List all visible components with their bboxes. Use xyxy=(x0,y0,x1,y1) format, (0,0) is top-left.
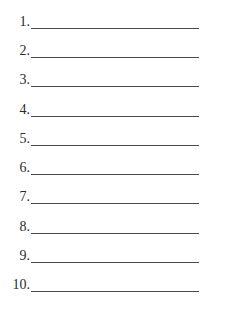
answer-blank-line[interactable] xyxy=(31,262,199,263)
item-number: 5. xyxy=(20,132,31,146)
item-number: 4. xyxy=(20,103,31,117)
numbered-blank-list: 1. 2. 3. 4. 5. 6. 7. 8. 9. 10. xyxy=(0,0,235,313)
answer-blank-line[interactable] xyxy=(31,291,199,292)
answer-blank-line[interactable] xyxy=(31,233,199,234)
list-item: 6. xyxy=(0,153,235,175)
list-item: 9. xyxy=(0,241,235,263)
answer-blank-line[interactable] xyxy=(31,86,199,87)
list-item: 10. xyxy=(0,270,235,292)
answer-blank-line[interactable] xyxy=(31,116,199,117)
answer-blank-line[interactable] xyxy=(31,145,199,146)
list-item: 8. xyxy=(0,212,235,234)
list-item: 3. xyxy=(0,65,235,87)
item-number: 3. xyxy=(20,73,31,87)
item-number: 8. xyxy=(20,220,31,234)
answer-blank-line[interactable] xyxy=(31,174,199,175)
list-item: 7. xyxy=(0,182,235,204)
list-item: 1. xyxy=(0,7,235,29)
item-number: 2. xyxy=(20,44,31,58)
answer-blank-line[interactable] xyxy=(31,28,199,29)
list-item: 5. xyxy=(0,124,235,146)
item-number: 9. xyxy=(20,249,31,263)
item-number: 7. xyxy=(20,190,31,204)
item-number: 10. xyxy=(13,278,31,292)
list-item: 2. xyxy=(0,36,235,58)
item-number: 6. xyxy=(20,161,31,175)
answer-blank-line[interactable] xyxy=(31,203,199,204)
list-item: 4. xyxy=(0,95,235,117)
item-number: 1. xyxy=(20,15,31,29)
answer-blank-line[interactable] xyxy=(31,57,199,58)
